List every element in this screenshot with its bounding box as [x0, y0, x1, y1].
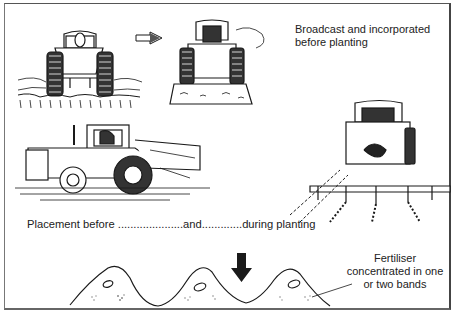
broadcast-label: Broadcast and incorporated before planti…: [295, 23, 455, 49]
placement-label: Placement before .....................an…: [27, 218, 316, 231]
tractor-side-placement-illustration: [15, 125, 210, 200]
arrow-right-icon: [136, 32, 162, 44]
fertiliser-bands-label: Fertiliser concentrated in one or two ba…: [343, 252, 447, 291]
tractor-spreader-rear-illustration: [18, 31, 142, 108]
tractor-planter-rear-illustration: [290, 101, 450, 223]
tractor-cultivator-rear-illustration: [170, 20, 264, 104]
ridge-cross-section-illustration: [70, 266, 352, 306]
arrow-down-icon: [231, 253, 252, 282]
